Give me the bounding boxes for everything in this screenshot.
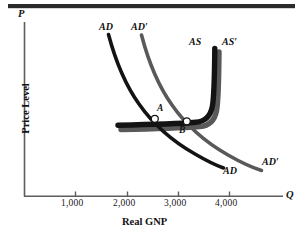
x-tick-label-2000: 2,000 bbox=[113, 199, 135, 209]
curve-label-as: AS bbox=[189, 37, 201, 47]
curve-label-ad-top: AD bbox=[99, 22, 113, 32]
equilibrium-point-a bbox=[151, 115, 158, 122]
x-axis-title: Real GNP bbox=[122, 217, 167, 228]
point-label-b: B bbox=[179, 126, 185, 136]
equilibrium-point-b bbox=[183, 118, 190, 125]
x-tick-label-3000: 3,000 bbox=[164, 199, 186, 209]
x-tick-label-1000: 1,000 bbox=[61, 199, 83, 209]
top-rule bbox=[8, 4, 295, 8]
curve-label-ad-prime-top: AD′ bbox=[131, 22, 148, 32]
y-axis-letter: P bbox=[18, 9, 24, 20]
curve-label-as-prime: AS′ bbox=[222, 37, 237, 47]
chart-svg bbox=[0, 0, 300, 237]
curve-label-ad-bottom: AD bbox=[223, 166, 237, 176]
point-label-a: A bbox=[157, 104, 163, 114]
y-axis-title: Price Level bbox=[20, 64, 31, 154]
curve-label-ad-prime-bottom: AD′ bbox=[262, 157, 279, 167]
ad-as-chart-figure: P Q Price Level Real GNP 1,000 2,000 3,0… bbox=[0, 0, 300, 237]
as-curve bbox=[118, 49, 215, 126]
ad-curve bbox=[109, 35, 224, 169]
x-axis-letter: Q bbox=[286, 190, 294, 201]
x-tick-label-4000: 4,000 bbox=[215, 199, 237, 209]
